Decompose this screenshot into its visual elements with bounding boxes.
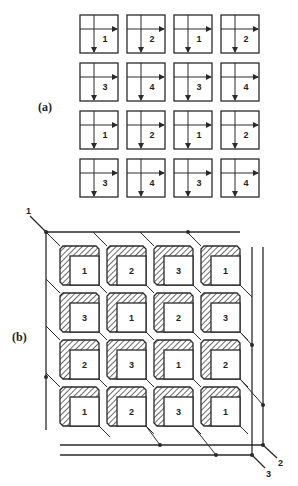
block-part-b: 2 xyxy=(201,340,240,379)
line-2-exit xyxy=(263,445,277,458)
cell-part-a: 3 xyxy=(174,159,212,197)
cell-number: 2 xyxy=(149,34,154,44)
cell-part-a: 4 xyxy=(221,159,259,197)
block-number: 3 xyxy=(223,313,228,323)
cell-part-a: 1 xyxy=(174,111,212,149)
block-number: 3 xyxy=(129,360,134,370)
cell-number: 4 xyxy=(149,178,154,188)
block-number: 2 xyxy=(223,360,228,370)
block-number: 1 xyxy=(223,407,228,417)
block-part-b: 2 xyxy=(107,387,146,426)
cell-number: 1 xyxy=(102,34,107,44)
block-number: 1 xyxy=(82,266,87,276)
junction-dot xyxy=(250,453,254,457)
block-number: 3 xyxy=(82,313,87,323)
grid-part-a: 1212343412123434 xyxy=(80,15,259,197)
cell-number: 1 xyxy=(196,34,201,44)
cell-number: 3 xyxy=(102,178,107,188)
cell-number: 2 xyxy=(243,34,248,44)
block-number: 3 xyxy=(176,407,181,417)
cell-number: 4 xyxy=(243,82,248,92)
cell-part-a: 2 xyxy=(127,111,165,149)
line-1-entry xyxy=(30,216,46,232)
cell-part-a: 1 xyxy=(80,15,118,53)
block-part-b: 3 xyxy=(107,340,146,379)
cell-part-a: 4 xyxy=(127,159,165,197)
cell-part-a: 1 xyxy=(80,111,118,149)
cell-part-a: 4 xyxy=(127,63,165,101)
line-label-1: 1 xyxy=(26,206,31,216)
block-number: 2 xyxy=(129,407,134,417)
block-part-b: 2 xyxy=(107,246,146,285)
block-part-b: 1 xyxy=(201,387,240,426)
block-number: 1 xyxy=(129,313,134,323)
block-part-b: 1 xyxy=(60,387,99,426)
block-part-b: 1 xyxy=(201,246,240,285)
cell-part-a: 1 xyxy=(174,15,212,53)
cell-part-a: 2 xyxy=(127,15,165,53)
block-number: 1 xyxy=(82,407,87,417)
cell-part-a: 3 xyxy=(80,159,118,197)
block-part-b: 1 xyxy=(154,340,193,379)
cell-part-a: 2 xyxy=(221,15,259,53)
line-3-exit xyxy=(252,455,265,468)
block-number: 2 xyxy=(176,313,181,323)
cell-part-a: 3 xyxy=(174,63,212,101)
cell-number: 1 xyxy=(102,130,107,140)
cell-number: 1 xyxy=(196,130,201,140)
block-part-b: 3 xyxy=(201,293,240,332)
block-number: 3 xyxy=(176,266,181,276)
block-part-b: 2 xyxy=(60,340,99,379)
block-number: 2 xyxy=(82,360,87,370)
block-part-b: 2 xyxy=(154,293,193,332)
cell-number: 4 xyxy=(149,82,154,92)
block-number: 1 xyxy=(176,360,181,370)
cell-part-a: 2 xyxy=(221,111,259,149)
cell-number: 3 xyxy=(102,82,107,92)
block-part-b: 3 xyxy=(60,293,99,332)
junction-dot xyxy=(44,375,48,379)
cell-number: 2 xyxy=(149,130,154,140)
cell-part-a: 4 xyxy=(221,63,259,101)
cell-number: 2 xyxy=(243,130,248,140)
cell-number: 3 xyxy=(196,82,201,92)
block-part-b: 1 xyxy=(60,246,99,285)
cell-number: 3 xyxy=(196,178,201,188)
block-part-b: 3 xyxy=(154,387,193,426)
block-part-b: 3 xyxy=(154,246,193,285)
block-number: 2 xyxy=(129,266,134,276)
line-label-2: 2 xyxy=(278,458,283,468)
block-number: 1 xyxy=(223,266,228,276)
figure-canvas: 1212343412123434 1231312323121231 1 2 3 xyxy=(0,0,298,486)
block-part-b: 1 xyxy=(107,293,146,332)
cell-number: 4 xyxy=(243,178,248,188)
cell-part-a: 3 xyxy=(80,63,118,101)
junction-dot xyxy=(261,443,265,447)
line-label-3: 3 xyxy=(266,469,271,479)
